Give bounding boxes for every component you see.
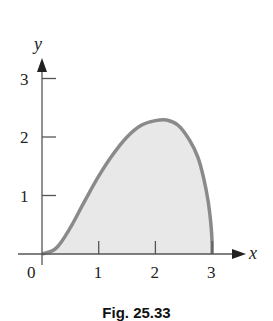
y-axis-arrow-icon [37,58,47,72]
x-axis-arrow-icon [232,249,246,259]
figure-caption: Fig. 25.33 [0,304,273,321]
y-tick-label: 1 [20,187,29,206]
x-axis-label: x [248,243,257,263]
x-tick-label: 0 [27,263,36,282]
y-axis-label: y [32,34,42,54]
x-tick-label: 3 [207,263,216,282]
y-tick-label: 2 [20,128,29,147]
x-tick-label: 2 [150,263,159,282]
y-ticks: 123 [20,70,56,206]
y-tick-label: 3 [20,70,29,89]
x-tick-label: 1 [94,263,103,282]
